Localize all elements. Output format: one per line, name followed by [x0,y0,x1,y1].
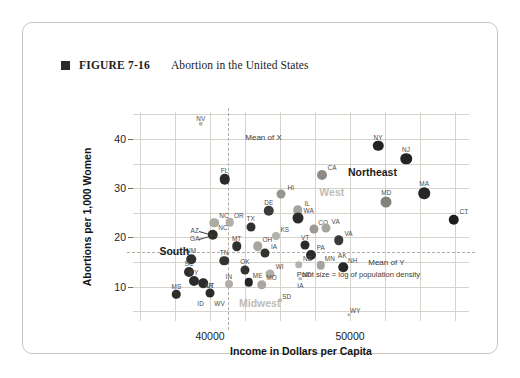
y-axis-tick-label: 40 [114,133,126,145]
scatter-point [400,153,412,165]
scatter-point-label: VA [344,229,352,236]
region-label-west: West [319,186,344,198]
scatter-point-label: IA [271,242,277,249]
scatter-point [448,214,459,225]
scatter-point-label: CT [459,208,468,215]
gridline-vertical [385,112,386,321]
gridline-horizontal [133,139,469,140]
scatter-point [309,225,318,234]
scatter-point [272,232,280,240]
scatter-point [199,122,204,127]
y-axis-tick-mark [128,139,133,140]
scatter-point-label: WI [276,263,284,270]
gridline-vertical [280,112,281,321]
scatter-point-label: VT [301,233,309,240]
scatter-point-label: WV [214,300,225,307]
scatter-point-label: ID [197,300,204,307]
scatter-point-label: MD [381,189,391,196]
scatter-point-label: HI [288,183,295,190]
scatter-point [246,222,255,231]
figure-frame: FIGURE 7-16 Abortion in the United State… [22,22,498,354]
scatter-plot-area: 102030404000050000NVNYNJCAFLMAHIMDDEILCT… [133,112,469,321]
scatter-point-label: VA [332,217,340,224]
gridline-horizontal [133,114,469,115]
scatter-point [334,236,344,246]
scatter-point-label: SD [282,292,291,299]
scatter-point-label: OR [234,211,244,218]
scatter-point-label: TX [246,215,254,222]
gridline-vertical [420,112,421,321]
scatter-point-label: AZ [191,226,199,233]
scatter-point-label: AK [338,251,347,258]
scatter-point-label: NC [218,223,227,230]
scatter-point [264,206,275,217]
x-axis-title: Income in Dollars per Capita [133,345,469,357]
scatter-point-label: MO [266,273,277,280]
scatter-point [277,190,286,199]
scatter-point [257,280,267,290]
scatter-point-label: PA [317,243,325,250]
mean-of-y-annotation: Mean of Y [368,258,404,267]
scatter-point [172,290,181,299]
scatter-point [260,249,269,258]
scatter-point-label: MA [419,180,429,187]
scatter-point-label: KY [190,268,199,275]
y-axis-tick-mark [128,237,133,238]
point-size-note-annotation: Point size = log of population density [297,269,420,278]
gridline-vertical [140,112,141,321]
scatter-point-label: TN [220,248,229,255]
scatter-point-label: OK [240,258,249,265]
scatter-point-label: WA [304,206,314,213]
gridline-vertical [315,112,316,321]
region-label-midwest: Midwest [239,297,280,309]
scatter-point [206,289,215,298]
scatter-point-label: NJ [402,145,410,152]
scatter-point-label: ME [253,271,263,278]
figure-header: FIGURE 7-16 Abortion in the United State… [61,59,309,71]
scatter-point-label: CA [327,164,336,171]
scatter-point-label: GA [190,234,199,241]
y-axis-tick-mark [128,188,133,189]
y-axis-tick-mark [128,287,133,288]
region-label-south: South [159,245,189,257]
scatter-point [317,170,327,180]
bullet-square-icon [61,61,70,70]
scatter-point-label: WY [350,306,361,313]
scatter-point [244,278,253,287]
x-axis-tick-label: 50000 [335,330,364,342]
y-axis-tick-label: 10 [114,281,126,293]
scatter-point-label: UT [206,281,215,288]
scatter-point-label: OH [262,235,272,242]
gridline-horizontal [133,311,469,312]
y-axis-tick-label: 20 [114,231,126,243]
y-axis-title: Abortions per 1,000 Women [80,112,94,321]
scatter-point [219,256,229,266]
scatter-point-label: NY [373,133,382,140]
scatter-point-label: IL [304,199,310,206]
scatter-point [293,213,304,224]
scatter-point-label: NE [303,255,312,262]
mean-of-x-annotation: Mean of X [245,133,281,142]
scatter-point-label: NV [196,114,205,121]
scatter-point [373,141,384,152]
scatter-point-label: SC [184,259,193,266]
scatter-point [295,261,303,269]
scatter-point [219,174,230,185]
figure-title: Abortion in the United States [171,59,309,71]
scatter-point [347,313,351,317]
scatter-point-label: IA [297,281,303,288]
scatter-point [232,242,242,252]
scatter-point-label: DE [264,198,273,205]
figure-number: FIGURE 7-16 [79,59,150,71]
x-axis-tick-label: 40000 [195,330,224,342]
scatter-point [301,241,310,250]
gridline-horizontal [133,164,469,165]
scatter-point-label: NH [348,256,357,263]
gridline-vertical [350,112,351,321]
region-label-northeast: Northeast [348,166,397,178]
scatter-point-label: FL [221,167,229,174]
scatter-point-label: IN [226,272,233,279]
scatter-point-label: KS [280,226,289,233]
scatter-point [381,196,392,207]
scatter-point [418,187,430,199]
